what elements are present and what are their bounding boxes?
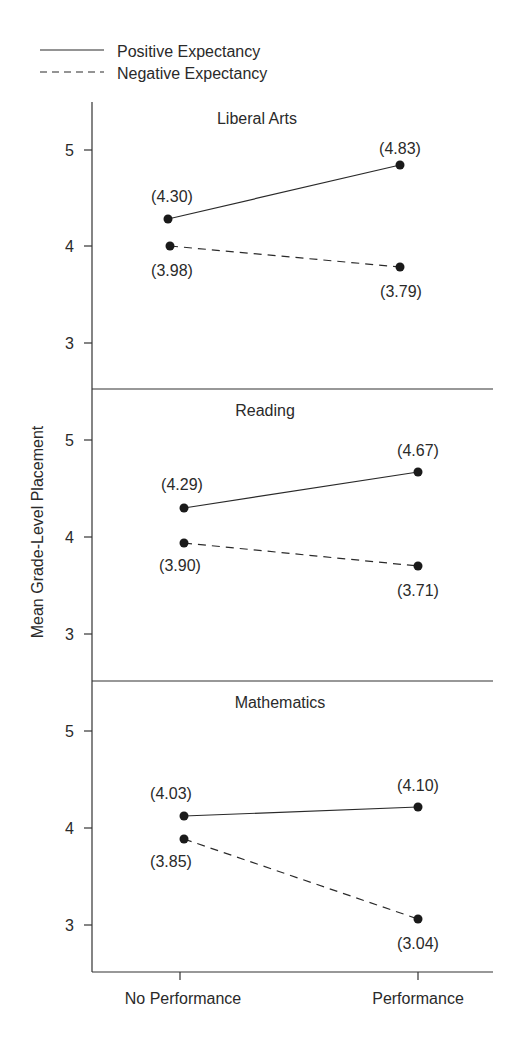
data-point [180,835,189,844]
y-tick-label: 5 [65,432,74,449]
y-tick-label: 5 [65,142,74,159]
legend-label-negative: Negative Expectancy [117,65,267,82]
negative-line [184,839,418,919]
data-point [180,812,189,821]
data-point [414,803,423,812]
negative-line [184,543,418,566]
y-axis-label: Mean Grade-Level Placement [29,425,46,638]
negative-line [170,246,400,267]
data-label: (4.29) [161,476,203,493]
positive-line [184,472,418,508]
legend: Positive Expectancy Negative Expectancy [40,43,267,82]
data-label: (3.90) [159,557,201,574]
chart-canvas: Positive Expectancy Negative Expectancy … [0,0,527,1042]
y-tick-label: 4 [65,529,74,546]
data-label: (4.10) [397,777,439,794]
data-label: (3.85) [150,853,192,870]
legend-label-positive: Positive Expectancy [117,43,260,60]
data-label: (3.98) [151,262,193,279]
data-label: (4.30) [151,188,193,205]
data-label: (4.83) [379,140,421,157]
data-point [396,161,405,170]
positive-line [168,165,400,219]
y-tick-label: 3 [65,917,74,934]
y-tick-label: 3 [65,626,74,643]
y-tick-label: 3 [65,335,74,352]
y-tick-label: 4 [65,820,74,837]
data-point [164,215,173,224]
data-point [414,562,423,571]
y-tick-label: 5 [65,723,74,740]
data-point [414,468,423,477]
panel-liberal-arts: Liberal Arts 5 4 3 (4.30) (4.83) (3.98) … [65,110,422,352]
x-tick-label: Performance [372,990,464,1007]
data-label: (3.04) [397,935,439,952]
data-label: (4.03) [150,785,192,802]
data-point [414,915,423,924]
panel-mathematics: Mathematics 5 4 3 (4.03) (4.10) (3.85) (… [65,694,439,952]
data-label: (3.79) [380,283,422,300]
data-label: (3.71) [397,582,439,599]
data-label: (4.67) [397,442,439,459]
data-point [396,263,405,272]
panel-title: Liberal Arts [217,110,297,127]
data-point [180,504,189,513]
data-point [180,539,189,548]
panel-title: Mathematics [235,694,326,711]
positive-line [184,807,418,816]
x-tick-label: No Performance [125,990,242,1007]
panel-reading: Reading 5 4 3 (4.29) (4.67) (3.90) (3.71… [65,402,439,643]
data-point [166,242,175,251]
panel-title: Reading [235,402,295,419]
y-tick-label: 4 [65,238,74,255]
